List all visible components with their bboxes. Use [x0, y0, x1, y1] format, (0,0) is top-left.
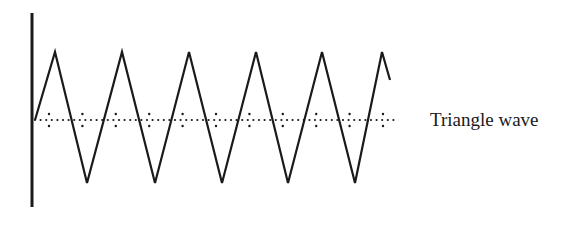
- triangle-wave-label: Triangle wave: [430, 109, 539, 131]
- triangle-wave-line: [35, 52, 390, 183]
